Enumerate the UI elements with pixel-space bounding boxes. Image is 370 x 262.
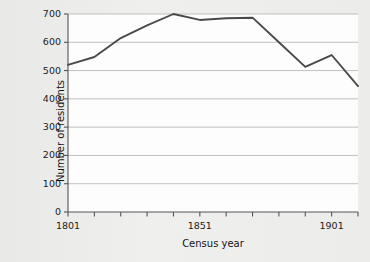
- x-axis-tick-label: 1851: [188, 221, 212, 231]
- plot-area: [68, 14, 358, 212]
- data-line-series: [68, 14, 358, 212]
- x-axis-tick-label: 1801: [56, 221, 80, 231]
- chart-figure: Number of residents Census year 01002003…: [0, 0, 370, 262]
- x-axis-tick-label: 1901: [320, 221, 344, 231]
